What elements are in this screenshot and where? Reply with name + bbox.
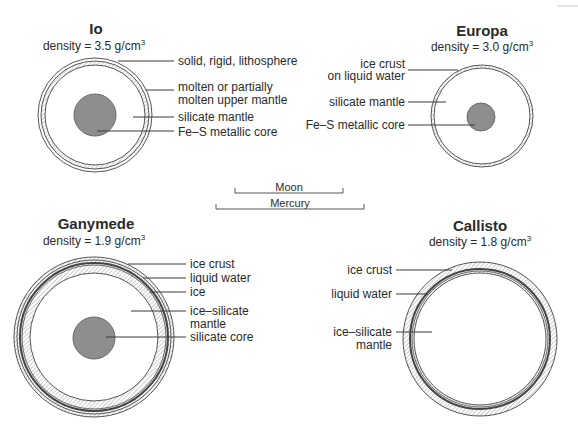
ganymede-label-ice-crust: ice crust	[190, 257, 235, 271]
callisto-density: density = 1.8 g/cm3	[429, 234, 532, 249]
ganymede-label-ice-silicate-1: ice–silicate	[190, 304, 249, 318]
io-label-lithosphere: solid, rigid, lithosphere	[178, 54, 298, 68]
europa-density: density = 3.0 g/cm3	[431, 39, 534, 54]
ganymede-density: density = 1.9 g/cm3	[43, 233, 146, 248]
moon-interiors-diagram: Io density = 3.5 g/cm3 solid, rigid, lit…	[0, 0, 578, 435]
callisto-label-liquid-water: liquid water	[331, 287, 392, 301]
europa-title: Europa	[456, 22, 508, 39]
scale-moon-label: Moon	[275, 181, 303, 193]
europa-label-liquid-water: on liquid water	[328, 69, 405, 83]
io-label-upper-mantle-1: molten or partially	[178, 80, 273, 94]
europa-label-core: Fe–S metallic core	[306, 118, 406, 132]
scale-bars: Moon Mercury	[216, 181, 364, 209]
io-label-upper-mantle-2: molten upper mantle	[178, 93, 288, 107]
callisto-label-ice-silicate-1: ice–silicate	[333, 325, 392, 339]
io-panel: Io density = 3.5 g/cm3 solid, rigid, lit…	[38, 20, 298, 172]
io-density: density = 3.5 g/cm3	[43, 38, 146, 53]
ganymede-label-liquid-water: liquid water	[190, 271, 251, 285]
callisto-label-ice-crust: ice crust	[347, 263, 392, 277]
europa-label-silicate-mantle: silicate mantle	[329, 95, 405, 109]
io-title: Io	[89, 20, 102, 37]
callisto-panel: Callisto density = 1.8 g/cm3 ice crust l…	[331, 217, 557, 416]
europa-panel: Europa density = 3.0 g/cm3 ice crust on …	[306, 22, 534, 167]
io-label-core: Fe–S metallic core	[178, 125, 278, 139]
ganymede-core	[73, 317, 115, 359]
europa-cross-section	[431, 65, 533, 167]
io-core	[74, 94, 116, 136]
ganymede-label-ice: ice	[190, 285, 206, 299]
callisto-label-ice-silicate-2: mantle	[356, 338, 392, 352]
io-label-silicate-mantle: silicate mantle	[178, 110, 254, 124]
callisto-title: Callisto	[453, 217, 507, 234]
callisto-cross-section	[403, 262, 557, 416]
ganymede-title: Ganymede	[58, 215, 135, 232]
ganymede-panel: Ganymede density = 1.9 g/cm3 ice crust l…	[14, 215, 254, 417]
scale-mercury-label: Mercury	[270, 197, 310, 209]
ganymede-label-ice-silicate-2: mantle	[190, 317, 226, 331]
ganymede-label-core: silicate core	[190, 330, 254, 344]
io-cross-section	[38, 58, 152, 172]
europa-core	[467, 103, 495, 131]
